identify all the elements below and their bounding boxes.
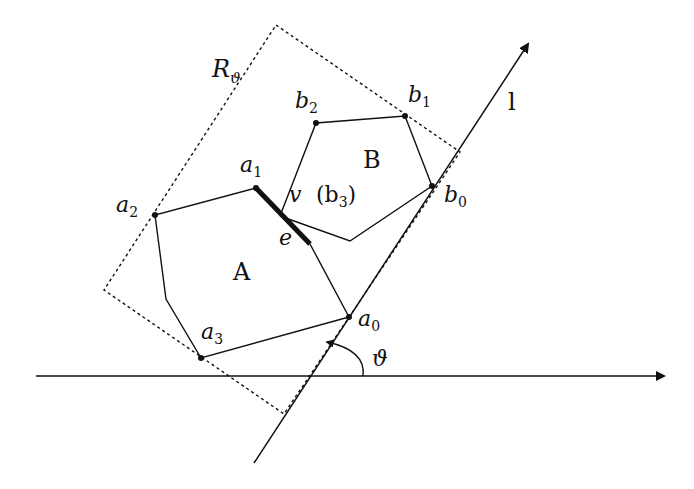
label-b1: b1 [408,82,431,110]
label-b3: (b3) [316,182,356,210]
vertex-a1 [253,185,259,191]
label-a1: a1 [240,152,262,180]
polygon-b [280,116,432,241]
region-rectangle [104,25,460,414]
label-polygon-b: B [363,146,381,174]
label-region: Rϑ [211,55,241,87]
label-a0: a0 [358,306,380,334]
vertex-a2 [152,212,158,218]
vertex-a3 [198,355,204,361]
label-v: v [289,182,302,207]
diagram-canvas: Rϑ l A B a0 a1 a2 a3 b0 b1 b2 v (b3) e ϑ [0,0,694,489]
vertex-b1 [402,113,408,119]
angle-arc [327,342,363,376]
label-angle: ϑ [372,346,388,371]
label-edge: e [279,225,292,250]
vertex-b2 [313,120,319,126]
label-b0: b0 [444,182,467,210]
vertex-a0 [346,314,352,320]
label-a2: a2 [116,192,138,220]
label-a3: a3 [201,319,223,347]
label-b2: b2 [295,88,318,116]
polygon-a [155,188,349,358]
label-polygon-a: A [232,258,251,286]
vertex-b0 [429,183,435,189]
label-line: l [508,88,516,116]
